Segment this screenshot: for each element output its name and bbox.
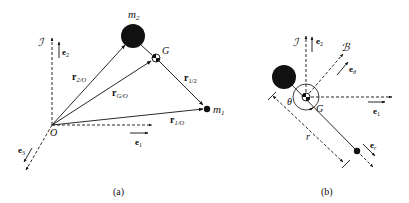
mass-large [272, 65, 296, 89]
label-etheta: eθ [349, 64, 356, 75]
r-dimension-tick-start [268, 92, 276, 100]
panel-a: m2 G m1 O ℐ r2/O rG/O r1/O r1/2 e2 e1 e3… [18, 8, 224, 198]
two-body-diagram: m2 G m1 O ℐ r2/O rG/O r1/O r1/2 e2 e1 e3… [0, 0, 409, 203]
label-r1O: r1/O [170, 114, 185, 126]
mass-m1 [204, 106, 210, 112]
etheta-arrow-icon [337, 62, 348, 75]
er-axis-dashed [357, 151, 373, 167]
body-line [284, 77, 357, 151]
label-frame-I: ℐ [293, 36, 300, 48]
caption-a: (a) [113, 186, 124, 198]
label-r: r [306, 131, 310, 142]
mass-m2 [121, 24, 145, 48]
axis-e3-dashed [26, 125, 52, 170]
label-e1: e1 [373, 106, 380, 117]
label-rGO: rG/O [112, 87, 128, 99]
label-G: G [162, 45, 169, 56]
label-m1: m1 [213, 103, 224, 117]
e3-arrow-icon [24, 148, 32, 162]
mass-small [354, 148, 360, 154]
angle-arrow-icon [309, 108, 313, 110]
label-frame-I: ℐ [38, 36, 45, 48]
label-e2: e2 [316, 36, 323, 47]
axis-B-dashed [306, 54, 343, 97]
center-of-mass-icon [152, 54, 160, 62]
label-e3: e3 [18, 145, 25, 156]
panel-b: ℐ ℬ G θ r e2 e1 eθ er (b) [268, 36, 392, 198]
label-theta: θ [287, 96, 292, 107]
r-dimension-dashed [273, 96, 343, 162]
label-r2O: r2/O [72, 71, 87, 83]
label-frame-B: ℬ [341, 41, 351, 53]
label-origin-O: O [50, 127, 57, 138]
center-of-mass-icon [302, 93, 310, 101]
connector-m2-G [141, 45, 152, 55]
caption-b: (b) [321, 186, 333, 198]
label-G: G [316, 103, 323, 114]
label-e1: e1 [135, 137, 142, 148]
label-er: er [370, 140, 377, 151]
r-dimension-tick-end [342, 160, 350, 168]
label-m2: m2 [128, 8, 140, 22]
label-r12: r1/2 [184, 72, 197, 84]
label-e2: e2 [62, 47, 69, 58]
